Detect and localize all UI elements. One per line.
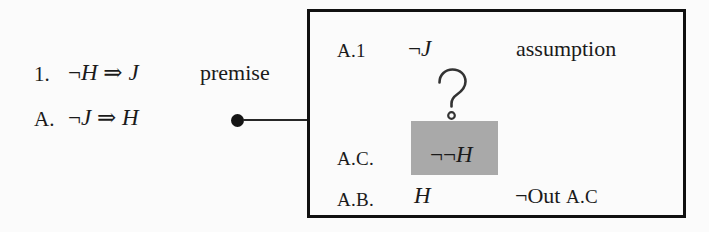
negation-symbol: ¬ — [408, 36, 421, 61]
variable-h: H — [456, 142, 473, 167]
variable-j: J — [128, 60, 138, 85]
rule-name: ¬Out — [515, 183, 560, 208]
proof-line-a-label: A. — [34, 109, 55, 130]
rule-reference: A.C — [566, 186, 598, 207]
variable-j: J — [421, 36, 431, 61]
negation-symbol: ¬ — [68, 60, 81, 85]
proof-line-1-label: 1. — [34, 64, 50, 85]
question-mark-icon — [427, 66, 475, 122]
proof-line-1-formula: ¬H ⇒ J — [68, 61, 139, 84]
double-negation-symbol: ¬¬ — [430, 142, 456, 167]
proof-line-a-formula: ¬J ⇒ H — [68, 106, 139, 129]
callout-box: A.1 ¬J assumption A.C. ¬¬H A.B. H ¬Out A… — [307, 9, 686, 218]
callout-row-0-formula: ¬J — [408, 37, 431, 60]
callout-row-2-formula: H — [414, 184, 431, 207]
callout-row-2-justification: ¬Out A.C — [515, 185, 598, 207]
callout-row-2-label: A.B. — [337, 190, 374, 209]
callout-row-1-label: A.C. — [337, 149, 374, 168]
variable-h: H — [81, 60, 98, 85]
callout-row-1-formula: ¬¬H — [430, 143, 473, 166]
connector-line — [243, 119, 309, 121]
implication-symbol: ⇒ — [97, 105, 116, 130]
variable-j: J — [81, 105, 91, 130]
proof-line-1-justification: premise — [200, 62, 270, 84]
variable-h: H — [414, 183, 431, 208]
negation-symbol: ¬ — [68, 105, 81, 130]
proof-figure: 1. ¬H ⇒ J premise A. ¬J ⇒ H A.1 ¬J assum… — [0, 0, 709, 232]
callout-row-0-label: A.1 — [337, 41, 366, 60]
variable-h: H — [122, 105, 139, 130]
implication-symbol: ⇒ — [103, 60, 122, 85]
callout-row-0-justification: assumption — [516, 38, 616, 60]
